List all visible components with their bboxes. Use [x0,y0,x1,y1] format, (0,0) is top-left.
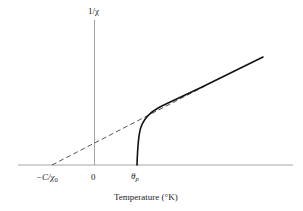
tick-label-theta-p: θp [131,172,139,183]
x-axis-label: Temperature (°K) [114,193,178,202]
tick-neg-sub: 0 [55,176,58,183]
curie-weiss-diagram: 1/χ −C/χ0 0 θp Temperature (°K) [0,0,303,211]
tick-label-origin: 0 [91,173,96,182]
y-axis-label: 1/χ [88,7,99,16]
tick-neg-main: −C/χ [36,172,55,182]
inverse-susceptibility-curve [137,57,263,165]
tick-label-negative-intercept: −C/χ0 [36,173,58,184]
tick-theta-sub: p [135,175,138,182]
dashed-asymptote-line [52,86,205,165]
